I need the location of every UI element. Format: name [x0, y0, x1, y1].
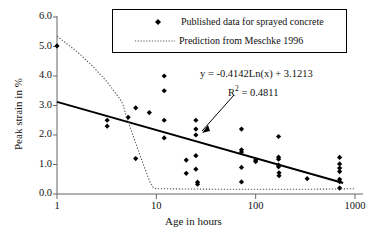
data-point-marker: [305, 176, 310, 181]
y-axis-tick-label: 2.0: [26, 128, 52, 139]
data-point-marker: [147, 110, 152, 115]
r2-symbol: R: [228, 87, 235, 98]
data-point-marker: [105, 124, 110, 129]
legend-marker-dotted-line-icon: [133, 32, 177, 50]
trendline-r2-label: R2 = 0.4811: [228, 84, 278, 98]
y-axis-title: Peak strain in %: [12, 78, 24, 150]
legend-marker-diamond-icon: [141, 13, 175, 31]
data-point-marker: [276, 173, 281, 178]
data-point-marker: [133, 156, 138, 161]
data-point-marker: [337, 169, 342, 174]
data-point-marker: [184, 171, 189, 176]
data-point-marker: [337, 155, 342, 160]
data-point-marker: [162, 118, 167, 123]
annotation-arrow-line: [202, 95, 234, 131]
data-point-marker: [337, 186, 342, 191]
data-point-marker: [54, 43, 59, 48]
chart-figure: Peak strain in % Age in hours Published …: [0, 0, 381, 237]
y-axis-tick-label: 0.0: [26, 187, 52, 198]
data-point-marker: [193, 153, 198, 158]
data-point-marker: [184, 157, 189, 162]
data-point-marker: [162, 73, 167, 78]
prediction-curve: [57, 36, 355, 189]
y-axis-tick-label: 4.0: [26, 69, 52, 80]
data-point-marker: [133, 105, 138, 110]
y-axis-tick-label: 5.0: [26, 40, 52, 51]
chart-legend: Published data for sprayed concrete Pred…: [112, 9, 347, 53]
data-point-marker: [193, 167, 198, 172]
x-axis-tick-label: 1000: [333, 200, 377, 211]
x-axis-tick-label: 10: [134, 200, 178, 211]
data-point-marker: [239, 165, 244, 170]
data-point-marker: [276, 134, 281, 139]
data-point-marker: [239, 179, 244, 184]
data-point-marker: [105, 118, 110, 123]
x-axis-tick-label: 100: [234, 200, 278, 211]
legend-label-published-data: Published data for sprayed concrete: [181, 16, 324, 27]
y-axis-tick-label: 3.0: [26, 99, 52, 110]
legend-label-prediction: Prediction from Meschke 1996: [179, 35, 303, 46]
data-point-marker: [193, 118, 198, 123]
y-axis-tick-label: 1.0: [26, 158, 52, 169]
y-axis-tick-label: 6.0: [26, 10, 52, 21]
data-point-marker: [193, 132, 198, 137]
data-point-marker: [193, 127, 198, 132]
x-axis-tick-label: 1: [35, 200, 79, 211]
data-point-marker: [162, 135, 167, 140]
legend-item-prediction: Prediction from Meschke 1996: [113, 32, 346, 50]
legend-item-published-data: Published data for sprayed concrete: [113, 13, 346, 31]
x-axis-title: Age in hours: [165, 215, 222, 227]
trendline: [57, 102, 343, 183]
data-point-marker: [162, 88, 167, 93]
data-point-marker: [239, 127, 244, 132]
r2-value: = 0.4811: [239, 87, 279, 98]
trendline-equation-label: y = -0.4142Ln(x) + 3.1213: [200, 68, 313, 79]
